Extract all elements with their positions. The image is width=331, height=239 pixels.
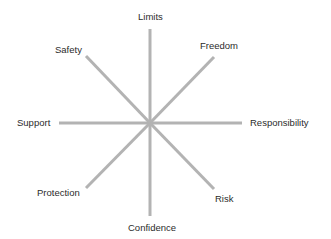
label-freedom: Freedom bbox=[200, 41, 238, 51]
label-protection: Protection bbox=[37, 188, 80, 198]
label-confidence: Confidence bbox=[128, 223, 176, 233]
label-support: Support bbox=[17, 118, 50, 128]
label-responsibility: Responsibility bbox=[250, 118, 309, 128]
label-risk: Risk bbox=[215, 194, 233, 204]
spoke-risk bbox=[150, 123, 214, 189]
spoke-protection bbox=[86, 123, 150, 188]
spoke-freedom bbox=[150, 57, 214, 123]
spoke-safety bbox=[86, 56, 150, 123]
label-limits: Limits bbox=[138, 12, 163, 22]
label-safety: Safety bbox=[55, 45, 82, 55]
